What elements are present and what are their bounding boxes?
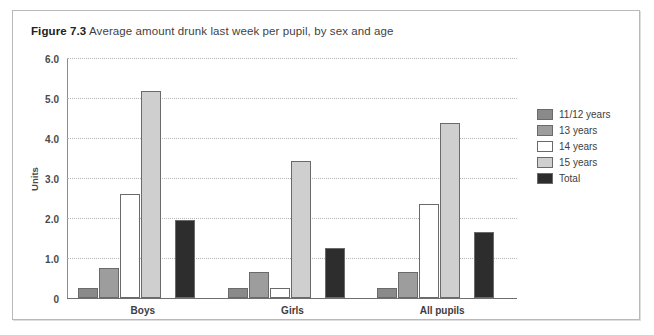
legend-label: 14 years: [559, 141, 597, 152]
bar: [377, 288, 397, 298]
y-tick-label: 3.0: [45, 174, 59, 185]
x-category-label: All pupils: [367, 305, 517, 316]
bar: [270, 288, 290, 298]
legend-item[interactable]: 13 years: [537, 122, 633, 138]
x-category-label: Girls: [218, 305, 368, 316]
y-tick-label: 5.0: [45, 94, 59, 105]
bars: [68, 59, 218, 298]
bar: [120, 194, 140, 298]
bar: [249, 272, 269, 298]
y-tick-label: 6.0: [45, 54, 59, 65]
y-tick-label: 2.0: [45, 214, 59, 225]
figure-caption: Average amount drunk last week per pupil…: [89, 25, 394, 37]
screenshot-root: Figure 7.3 Average amount drunk last wee…: [0, 0, 654, 335]
legend-label: 11/12 years: [559, 109, 611, 120]
bar: [398, 272, 418, 298]
y-tick-label: 4.0: [45, 134, 59, 145]
figure-title: Figure 7.3 Average amount drunk last wee…: [31, 25, 394, 37]
bar: [175, 220, 195, 298]
legend-label: 13 years: [559, 125, 597, 136]
bar-group: Boys: [68, 59, 218, 298]
bar: [99, 268, 119, 298]
legend-item[interactable]: 14 years: [537, 138, 633, 154]
legend-swatch-icon: [537, 157, 553, 168]
bar: [325, 248, 345, 298]
y-tick-label: 0: [53, 294, 59, 305]
legend-swatch-icon: [537, 109, 553, 120]
legend-label: 15 years: [559, 157, 597, 168]
bar: [474, 232, 494, 298]
bars: [218, 59, 368, 298]
legend-item[interactable]: 15 years: [537, 154, 633, 170]
bar: [78, 288, 98, 298]
legend-item[interactable]: 11/12 years: [537, 106, 633, 122]
bar: [419, 204, 439, 298]
legend-swatch-icon: [537, 173, 553, 184]
chart-legend: 11/12 years13 years14 years15 yearsTotal: [537, 106, 633, 186]
bar-group: All pupils: [367, 59, 517, 298]
bar-groups: BoysGirlsAll pupils: [68, 59, 517, 298]
bar: [228, 288, 248, 298]
legend-swatch-icon: [537, 141, 553, 152]
bar-group: Girls: [218, 59, 368, 298]
y-axis-label: Units: [29, 167, 40, 191]
y-tick-label: 1.0: [45, 254, 59, 265]
legend-label: Total: [559, 173, 580, 184]
x-category-label: Boys: [68, 305, 218, 316]
bars: [367, 59, 517, 298]
figure-number: Figure 7.3: [31, 25, 86, 37]
bar: [141, 91, 161, 298]
figure-container: Figure 7.3 Average amount drunk last wee…: [12, 10, 640, 320]
x-axis-line: [67, 298, 517, 299]
plot-area: Units 01.02.03.04.05.06.0 BoysGirlsAll p…: [67, 59, 517, 299]
legend-item[interactable]: Total: [537, 170, 633, 186]
bar: [291, 161, 311, 298]
bar: [440, 123, 460, 298]
legend-swatch-icon: [537, 125, 553, 136]
